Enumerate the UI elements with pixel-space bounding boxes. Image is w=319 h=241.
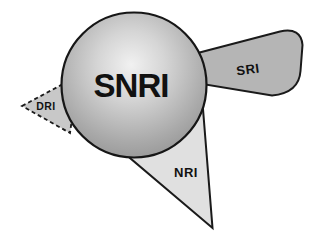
sri-label: SRI xyxy=(235,60,260,78)
dri-label: DRI xyxy=(36,100,56,112)
nri-label: NRI xyxy=(174,165,198,180)
snri-label: SNRI xyxy=(94,67,169,104)
diagram-canvas: SNRI SRI NRI DRI xyxy=(0,0,319,241)
snri-diagram: SNRI SRI NRI DRI xyxy=(0,0,319,241)
